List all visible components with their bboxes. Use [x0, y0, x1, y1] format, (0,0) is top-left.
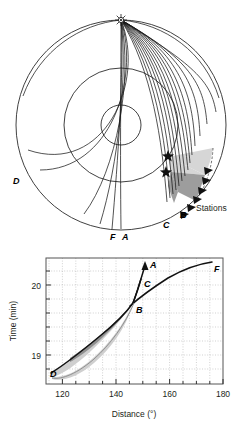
label-B: B — [180, 210, 187, 220]
x-tick-label: 120 — [55, 389, 69, 399]
x-tick-label: 180 — [216, 389, 230, 399]
ray-path — [84, 20, 125, 214]
earthquake-source-starburst-icon — [115, 14, 127, 26]
x-axis-title: Distance (°) — [112, 409, 157, 419]
travel-time-chart-svg: 120 140 160 180 20 19 Distance (°) Time … — [0, 245, 245, 442]
x-tick-label: 160 — [163, 389, 177, 399]
ray-path — [23, 20, 121, 96]
annotation-A: A — [149, 260, 157, 270]
y-tick-label: 19 — [32, 351, 42, 361]
annotation-F: F — [214, 264, 220, 274]
station-marker — [198, 187, 207, 195]
label-F: F — [110, 232, 116, 242]
annotation-B: B — [136, 305, 143, 315]
x-tick-label: 140 — [109, 389, 123, 399]
y-axis-title: Time (min) — [8, 301, 18, 341]
label-D: D — [13, 176, 20, 186]
ray-path — [121, 20, 200, 136]
earth-cross-section-panel: D F A C B Stations — [0, 0, 245, 245]
stations-label: Stations — [196, 203, 227, 213]
station-marker — [187, 204, 196, 212]
seismology-figure: D F A C B Stations — [0, 0, 245, 442]
annotation-C: C — [144, 279, 151, 289]
label-C: C — [163, 220, 170, 230]
label-A: A — [121, 232, 129, 242]
travel-time-chart-panel: 120 140 160 180 20 19 Distance (°) Time … — [0, 245, 245, 442]
y-tick-label: 20 — [32, 281, 42, 291]
annotation-D: D — [50, 369, 57, 379]
earth-cross-section-svg: D F A C B Stations — [0, 0, 245, 245]
